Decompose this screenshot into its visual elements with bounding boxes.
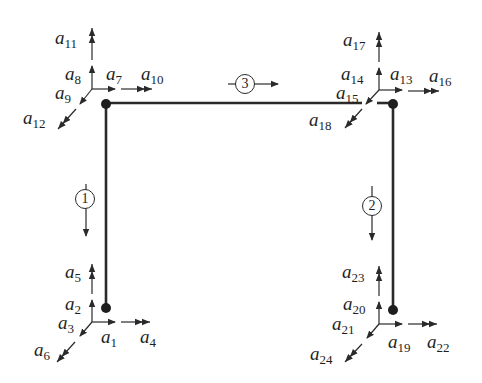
- label-a3: a3: [58, 313, 74, 335]
- label-a24: a24: [310, 344, 333, 366]
- member-1-badge: 1: [75, 189, 95, 209]
- joint-bottom-right: [388, 305, 398, 315]
- label-a17: a17: [343, 30, 366, 52]
- joint-bottom-left: [101, 303, 111, 313]
- label-a9: a9: [55, 83, 71, 105]
- label-a1: a1: [101, 327, 117, 349]
- label-a11: a11: [55, 28, 77, 50]
- member-3-badge: 3: [235, 74, 255, 94]
- label-a23: a23: [342, 262, 365, 284]
- joint-top-right: [388, 99, 398, 109]
- label-a20: a20: [343, 294, 366, 316]
- label-a6: a6: [34, 340, 50, 362]
- label-a15: a15: [336, 83, 359, 105]
- label-a4: a4: [140, 327, 156, 349]
- member-1-number: 1: [82, 191, 89, 206]
- member-3-number: 3: [242, 76, 249, 91]
- label-a18: a18: [309, 110, 332, 132]
- label-a19: a19: [388, 332, 411, 354]
- label-a16: a16: [429, 66, 452, 88]
- portal-frame-diagram: 1 2 3 a11 a8 a7 a10 a9 a12 a17 a14 a13 a…: [0, 0, 482, 383]
- label-a10: a10: [141, 64, 164, 86]
- member-2-number: 2: [369, 198, 376, 213]
- label-a7: a7: [106, 64, 122, 86]
- label-a22: a22: [427, 332, 450, 354]
- member-direction-arrows: [86, 84, 372, 240]
- label-a21: a21: [332, 314, 355, 336]
- label-a12: a12: [23, 108, 46, 130]
- member-2-badge: 2: [362, 196, 382, 216]
- label-a5: a5: [65, 262, 81, 284]
- label-a13: a13: [390, 64, 413, 86]
- joint-top-left: [101, 99, 111, 109]
